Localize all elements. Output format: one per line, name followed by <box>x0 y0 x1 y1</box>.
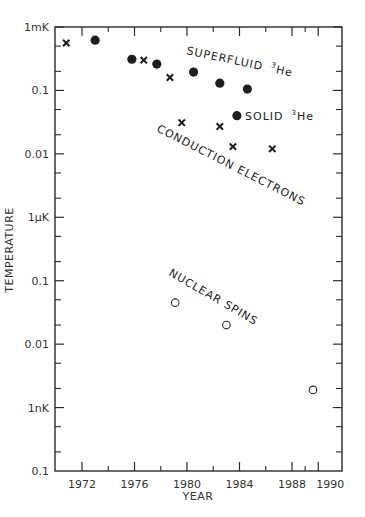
annotation-superfluid-3he: SUPERFLUID3He <box>185 43 294 79</box>
x-tick-label: 1988 <box>278 478 306 491</box>
svg-text:SUPERFLUID3He: SUPERFLUID3He <box>185 43 294 79</box>
svg-text:NUCLEAR SPINS: NUCLEAR SPINS <box>167 266 261 328</box>
svg-text:CONDUCTION ELECTRONS: CONDUCTION ELECTRONS <box>155 122 308 209</box>
annotation-solid-3he: SOLID3He <box>245 109 314 123</box>
x-tick-label: 1976 <box>121 478 149 491</box>
open-circle-marker <box>309 386 317 394</box>
open-circle-marker <box>171 299 179 307</box>
data-points <box>63 36 317 394</box>
cross-marker <box>230 143 236 149</box>
y-tick-label: 1nK <box>28 402 50 415</box>
cross-marker <box>269 146 275 152</box>
y-tick-labels: 1mK0.10.011µK0.10.011nK0.1 <box>24 21 50 478</box>
annotation-conduction-electrons: CONDUCTION ELECTRONS <box>155 122 308 209</box>
y-tick-label: 0.1 <box>32 84 50 97</box>
filled-circle-marker <box>243 84 252 93</box>
x-axis-title: YEAR <box>182 490 214 503</box>
x-tick-label: 1984 <box>226 478 254 491</box>
svg-text:SOLID3He: SOLID3He <box>245 109 314 123</box>
x-tick-label: 1972 <box>68 478 96 491</box>
series-solid-3he <box>232 111 241 120</box>
x-tick-label: 1990 <box>316 478 344 491</box>
cross-marker <box>179 119 185 125</box>
plot-axes <box>55 27 342 471</box>
filled-circle-marker <box>232 111 241 120</box>
cross-marker <box>140 57 146 63</box>
open-circle-marker <box>223 321 231 329</box>
plot-frame <box>55 27 342 471</box>
temperature-records-chart: 197219761980198419881990 1mK0.10.011µK0.… <box>0 0 365 517</box>
y-tick-label: 0.01 <box>25 148 50 161</box>
cross-marker <box>167 74 173 80</box>
filled-circle-marker <box>91 36 100 45</box>
y-tick-label: 0.1 <box>32 275 50 288</box>
cross-marker <box>63 40 69 46</box>
y-tick-label: 1µK <box>28 211 50 224</box>
filled-circle-marker <box>152 60 161 69</box>
filled-circle-marker <box>189 67 198 76</box>
filled-circle-marker <box>127 55 136 64</box>
y-tick-label: 1mK <box>24 21 50 34</box>
y-tick-label: 0.01 <box>25 338 50 351</box>
annotation-nuclear-spins: NUCLEAR SPINS <box>167 266 261 328</box>
axis-ticks <box>55 27 342 471</box>
y-tick-label: 0.1 <box>32 465 50 478</box>
cross-marker <box>217 123 223 129</box>
y-axis-title: TEMPERATURE <box>3 207 16 293</box>
filled-circle-marker <box>215 79 224 88</box>
